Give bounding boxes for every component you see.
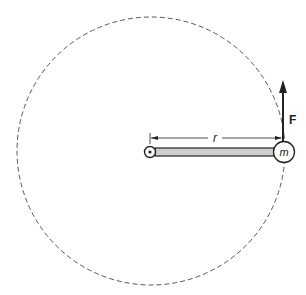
force-label: F bbox=[289, 113, 296, 127]
pivot-dot-icon bbox=[148, 150, 151, 153]
radius-label: r bbox=[213, 131, 218, 145]
rod bbox=[155, 148, 274, 156]
dimension-arrowhead-right-icon bbox=[275, 136, 282, 140]
diagram-canvas: m r F bbox=[0, 0, 306, 295]
force-arrowhead-icon bbox=[279, 80, 287, 93]
dimension-arrowhead-left-icon bbox=[151, 136, 158, 140]
rotation-diagram: m r F bbox=[0, 0, 306, 295]
mass-label: m bbox=[279, 146, 288, 158]
